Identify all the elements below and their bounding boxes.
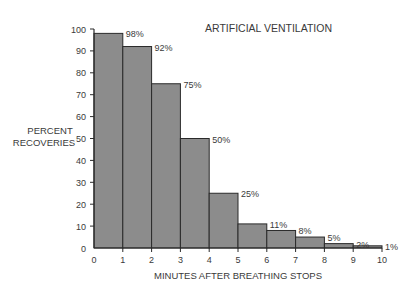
- x-tick-label: 5: [235, 255, 240, 265]
- bar: [267, 230, 296, 248]
- y-tick-label: 100: [71, 25, 86, 35]
- bar: [123, 47, 152, 248]
- y-tick-label: 40: [76, 156, 86, 166]
- y-axis-label-line-2: RECOVERIES: [13, 137, 75, 148]
- y-tick-label: 10: [76, 222, 86, 232]
- recovery-histogram: ARTIFICIAL VENTILATION PERCENT RECOVERIE…: [0, 0, 419, 296]
- bar-value-label: 92%: [155, 43, 173, 53]
- bar-value-label: 11%: [270, 220, 287, 230]
- y-tick-label: 20: [76, 200, 86, 210]
- y-tick-label: 80: [76, 68, 86, 78]
- chart-title: ARTIFICIAL VENTILATION: [205, 22, 332, 34]
- x-tick-label: 2: [149, 255, 154, 265]
- y-axis-label-line-1: PERCENT: [27, 125, 73, 136]
- y-tick-label: 0: [81, 244, 86, 254]
- bar: [152, 84, 181, 248]
- bar-value-label: 50%: [212, 135, 230, 145]
- y-tick-label: 70: [76, 90, 86, 100]
- y-tick-label: 30: [76, 178, 86, 188]
- bar-value-label: 8%: [299, 226, 312, 236]
- bar: [296, 237, 325, 248]
- x-tick-label: 0: [91, 255, 96, 265]
- x-tick-label: 10: [377, 255, 387, 265]
- bar-value-label: 1%: [385, 242, 398, 252]
- x-tick-label: 1: [120, 255, 125, 265]
- bar-value-label: 25%: [241, 189, 259, 199]
- bar-value-label: 75%: [183, 80, 201, 90]
- x-tick-label: 4: [207, 255, 212, 265]
- x-tick-label: 7: [293, 255, 298, 265]
- y-tick-label: 60: [76, 112, 86, 122]
- bars: [94, 33, 382, 248]
- x-tick-label: 3: [178, 255, 183, 265]
- y-tick-label: 50: [76, 134, 86, 144]
- bar-value-label: 98%: [126, 29, 144, 39]
- x-tick-label: 6: [264, 255, 269, 265]
- x-axis-label: MINUTES AFTER BREATHING STOPS: [154, 270, 322, 281]
- y-axis-label: PERCENT RECOVERIES: [13, 125, 75, 148]
- bar: [324, 244, 353, 248]
- bar: [238, 224, 267, 248]
- x-tick-label: 8: [322, 255, 327, 265]
- y-tick-label: 90: [76, 46, 86, 56]
- bar: [180, 139, 209, 249]
- bar-value-label: 5%: [327, 233, 340, 243]
- bar: [94, 33, 123, 248]
- bar: [209, 193, 238, 248]
- x-tick-label: 9: [351, 255, 356, 265]
